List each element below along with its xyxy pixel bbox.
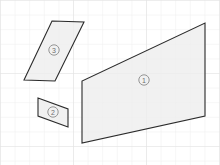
shape-lower-left-parallelogram[interactable]: 2 (38, 98, 68, 127)
shape-upper-left-parallelogram[interactable]: 3 (24, 21, 84, 81)
diagram-canvas: 3 2 1 (0, 0, 220, 165)
shape-label-1: 1 (142, 77, 146, 84)
shape-label-2: 2 (51, 109, 55, 116)
shapes-layer: 3 2 1 (0, 0, 220, 165)
shape-large-right-parallelogram[interactable]: 1 (82, 23, 205, 143)
shape-label-3: 3 (52, 47, 56, 54)
